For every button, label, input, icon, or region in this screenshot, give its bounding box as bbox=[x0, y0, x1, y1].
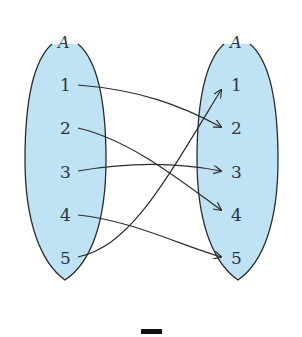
codomain-element-1: 1 bbox=[231, 75, 242, 95]
codomain-element-5: 5 bbox=[231, 248, 242, 268]
codomain-element-3: 3 bbox=[231, 162, 242, 182]
domain-element-1: 1 bbox=[60, 75, 71, 95]
domain-element-5: 5 bbox=[60, 248, 71, 268]
domain-set-label: A bbox=[56, 33, 70, 52]
domain-element-3: 3 bbox=[60, 162, 71, 182]
codomain-set: A 1 2 3 4 5 bbox=[197, 33, 278, 280]
caption-mark bbox=[141, 329, 162, 334]
domain-element-4: 4 bbox=[60, 205, 71, 225]
codomain-element-4: 4 bbox=[231, 205, 242, 225]
domain-element-2: 2 bbox=[60, 118, 71, 138]
codomain-set-label: A bbox=[228, 33, 242, 52]
mapping-diagram: A 1 2 3 4 5 A 1 2 3 4 5 bbox=[0, 0, 302, 337]
codomain-element-2: 2 bbox=[231, 118, 242, 138]
domain-set: A 1 2 3 4 5 bbox=[25, 33, 106, 280]
